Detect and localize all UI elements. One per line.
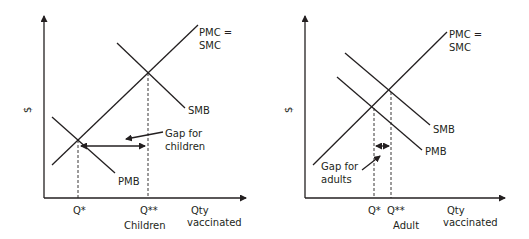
smb-label: SMB bbox=[433, 124, 455, 135]
children-panel: $ PMC = SMC SMB PMB Gap for children Q* … bbox=[22, 16, 246, 231]
pmb-curve bbox=[337, 77, 422, 150]
gap-pointer-arrow bbox=[362, 156, 380, 170]
pmc-label: PMC = bbox=[449, 29, 482, 40]
q-star-label: Q* bbox=[73, 205, 86, 216]
gap-label-line1: Gap for bbox=[321, 161, 359, 172]
pmb-label: PMB bbox=[118, 176, 140, 187]
pmb-curve bbox=[52, 117, 115, 173]
pmc-label: PMC = bbox=[199, 27, 232, 38]
group-label: Adult bbox=[393, 220, 419, 231]
gap-label-line1: Gap for bbox=[165, 128, 203, 139]
group-label: Children bbox=[124, 220, 166, 231]
smc-label: SMC bbox=[449, 42, 471, 53]
x-axis-label-line1: Qty bbox=[191, 205, 209, 216]
x-axis-label-line1: Qty bbox=[447, 205, 465, 216]
q-star-label: Q* bbox=[368, 205, 381, 216]
y-axis-label: $ bbox=[22, 107, 33, 113]
q-double-star-label: Q** bbox=[140, 205, 158, 216]
smc-label: SMC bbox=[199, 40, 221, 51]
gap-pointer-arrow bbox=[126, 132, 163, 139]
smb-curve bbox=[345, 53, 430, 125]
pmb-label: PMB bbox=[425, 146, 447, 157]
vaccination-externality-diagram: $ PMC = SMC SMB PMB Gap for children Q* … bbox=[0, 0, 529, 239]
x-axis-label-line2: vaccinated bbox=[443, 217, 498, 228]
adult-panel: $ PMC = SMC SMB PMB Gap for adults Q* Q*… bbox=[283, 16, 505, 231]
smb-curve bbox=[117, 43, 185, 108]
q-double-star-label: Q** bbox=[387, 205, 405, 216]
smb-label: SMB bbox=[188, 105, 210, 116]
x-axis-label-line2: vaccinated bbox=[187, 217, 242, 228]
y-axis-label: $ bbox=[283, 107, 294, 113]
gap-label-line2: adults bbox=[321, 174, 352, 185]
gap-label-line2: children bbox=[165, 141, 205, 152]
